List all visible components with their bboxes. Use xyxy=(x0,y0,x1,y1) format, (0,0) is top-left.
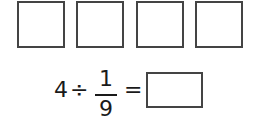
answer-blank-1[interactable] xyxy=(17,1,65,48)
fraction-numerator: 1 xyxy=(95,68,117,90)
answer-blank-4[interactable] xyxy=(195,1,243,48)
division-sign: ÷ xyxy=(70,79,88,101)
answer-blank-3[interactable] xyxy=(136,1,184,48)
answer-blank-2[interactable] xyxy=(76,1,124,48)
dividend: 4 xyxy=(54,79,68,101)
fraction-denominator: 9 xyxy=(95,98,117,120)
equation-answer-box[interactable] xyxy=(146,72,203,108)
equals-sign: = xyxy=(124,79,142,101)
fraction-divisor: 1 9 xyxy=(95,68,117,120)
